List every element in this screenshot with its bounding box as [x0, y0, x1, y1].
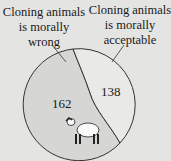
value-morally-acceptable: 138 [101, 84, 121, 100]
leader-line-right [112, 45, 124, 62]
pie-chart [0, 0, 171, 161]
value-morally-wrong: 162 [52, 96, 72, 112]
